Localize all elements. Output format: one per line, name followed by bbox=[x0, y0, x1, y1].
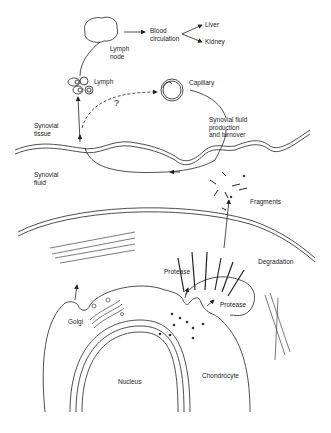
label-chondrocyte: Chondrocyte bbox=[202, 372, 239, 380]
label-blood-circulation: Blood circulation bbox=[150, 27, 179, 42]
label-lymph: Lymph bbox=[94, 78, 113, 86]
lymph-cells-icon bbox=[68, 77, 93, 94]
collagen-fibril-icon bbox=[50, 232, 135, 263]
label-protease-2: Protease bbox=[220, 301, 246, 309]
cartilage-degradation-diagram bbox=[0, 0, 331, 433]
label-capillary: Capillary bbox=[189, 79, 214, 87]
label-protease-1: Protease bbox=[164, 268, 190, 276]
label-synovial-fluid-production: Synovial fluid production and turnover bbox=[209, 116, 247, 139]
capillary-icon bbox=[161, 79, 183, 101]
label-synovial-tissue: Synovial tissue bbox=[34, 122, 59, 137]
label-golgi: Golgi bbox=[68, 318, 83, 326]
chondrocyte-icon bbox=[43, 286, 250, 412]
label-synovial-fluid: Synovial fluid bbox=[34, 171, 59, 186]
collagen-fibril-icon bbox=[265, 293, 290, 360]
label-lymph-node: Lymph node bbox=[110, 45, 129, 60]
label-liver: Liver bbox=[205, 21, 219, 29]
label-question: ? bbox=[114, 100, 119, 108]
label-fragments: Fragments bbox=[250, 198, 281, 206]
lymph-node-icon bbox=[84, 17, 117, 42]
label-kidney: Kidney bbox=[205, 38, 225, 46]
label-degradation: Degradation bbox=[258, 258, 293, 266]
label-nucleus: Nucleus bbox=[118, 378, 141, 386]
nucleus-icon bbox=[70, 320, 190, 412]
